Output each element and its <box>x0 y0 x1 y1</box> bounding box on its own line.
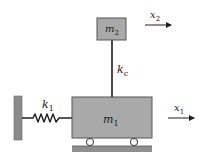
spring-k1-label: k1 <box>42 98 54 113</box>
mass-spring-diagram: k1 m1 kc m2 x2 x1 <box>0 0 204 163</box>
displacement-x2-label: x2 <box>150 9 160 23</box>
ground <box>72 146 152 152</box>
fixed-wall <box>14 96 22 140</box>
displacement-x1-label: x1 <box>174 102 184 116</box>
wheel-right <box>130 138 137 145</box>
spring-kc-label: kc <box>117 63 129 78</box>
wheel-left <box>86 138 93 145</box>
spring-k1 <box>22 114 72 122</box>
